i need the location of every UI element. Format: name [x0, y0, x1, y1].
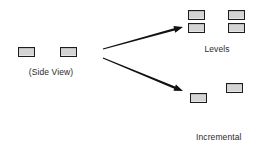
incremental-elevation-block-2 [190, 93, 207, 103]
incremental-elevation-caption-line1: Incremental [196, 132, 260, 142]
side-view-caption: (Side View) [18, 67, 84, 77]
arrow-to-incremental-elevation [103, 57, 183, 91]
side-view-block-1 [18, 47, 35, 57]
side-view-block-2 [60, 47, 77, 57]
incremental-elevation-block-1 [226, 83, 243, 93]
levels-caption: Levels [188, 44, 246, 54]
levels-block-3 [188, 23, 205, 33]
arrow-to-levels [103, 26, 183, 49]
levels-block-2 [228, 10, 245, 20]
incremental-elevation-caption: Incremental Elevation [196, 112, 260, 146]
diagram-canvas: (Side View) Levels Incremental Elevation [0, 0, 271, 146]
levels-block-1 [188, 10, 205, 20]
levels-block-4 [228, 23, 245, 33]
